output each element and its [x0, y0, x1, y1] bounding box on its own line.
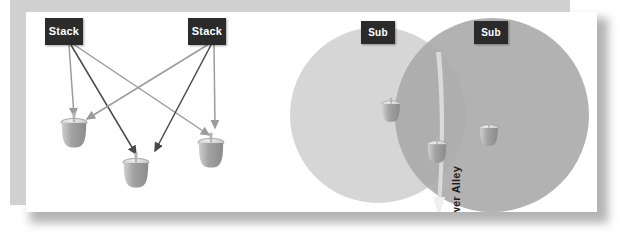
- arrow-stack-right-to-unit-c: [214, 45, 215, 128]
- unit-marker-d: [382, 98, 401, 122]
- unit-marker-e: [480, 122, 499, 146]
- diagram-canvas: [26, 12, 597, 212]
- stack-arrow-group: [69, 44, 215, 154]
- sub-label-left[interactable]: Sub: [361, 21, 395, 44]
- figure-white-page: Power Alley: [26, 12, 597, 212]
- arrow-stack-left-to-unit-a: [69, 45, 74, 116]
- arrow-stack-left-to-unit-c: [73, 44, 209, 135]
- unit-marker-f: [427, 138, 447, 163]
- power-alley-label: Power Alley: [450, 166, 462, 212]
- sub-label-right[interactable]: Sub: [474, 21, 508, 44]
- unit-marker-b: [123, 153, 149, 188]
- arrow-stack-right-to-unit-b: [155, 45, 211, 151]
- figure-root: Power Alley Stack Stack Sub Sub: [0, 0, 622, 239]
- stack-label-left[interactable]: Stack: [45, 18, 83, 45]
- unit-marker-a: [61, 113, 87, 148]
- arrow-stack-right-to-unit-a: [87, 44, 209, 119]
- stack-label-right[interactable]: Stack: [188, 18, 226, 45]
- unit-marker-c: [198, 133, 224, 168]
